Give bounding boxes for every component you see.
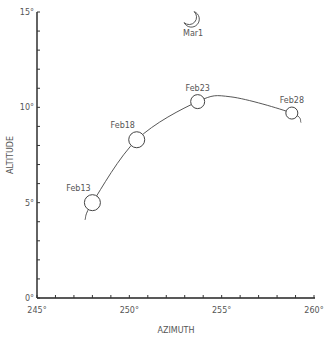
y-tick-label: 5°: [25, 199, 34, 208]
y-tick-label: 0°: [25, 294, 34, 303]
point-label: Feb18: [111, 121, 135, 130]
y-axis-label: ALTITUDE: [6, 136, 15, 174]
point-label: Feb13: [66, 184, 90, 193]
x-axis-label: AZIMUTH: [158, 326, 195, 335]
x-tick-label: 260°: [304, 306, 323, 315]
x-tick-label: 255°: [212, 306, 231, 315]
x-tick-label: 245°: [27, 306, 46, 315]
data-point-circle: [191, 95, 205, 109]
point-label: Feb28: [280, 96, 304, 105]
data-point-circle: [286, 107, 298, 119]
point-label: Feb23: [185, 84, 209, 93]
x-tick-labels: 245°250°255°260°: [27, 306, 323, 315]
x-tick-label: 250°: [120, 306, 139, 315]
point-label: Mar1: [183, 29, 203, 38]
y-tick-labels: 0°5°10°15°: [20, 8, 34, 303]
trajectory-curve: [85, 96, 301, 220]
crescent-moon-icon: Mar1: [183, 12, 203, 38]
y-tick-label: 15°: [20, 8, 34, 17]
data-point-circle: [129, 132, 145, 148]
altitude-azimuth-chart: 0°5°10°15° 245°250°255°260° AZIMUTH ALTI…: [0, 0, 334, 343]
data-point-circle: [84, 195, 100, 211]
data-points: Feb13Feb18Feb23Feb28: [66, 84, 304, 211]
axes: [37, 12, 315, 298]
y-tick-label: 10°: [20, 103, 34, 112]
